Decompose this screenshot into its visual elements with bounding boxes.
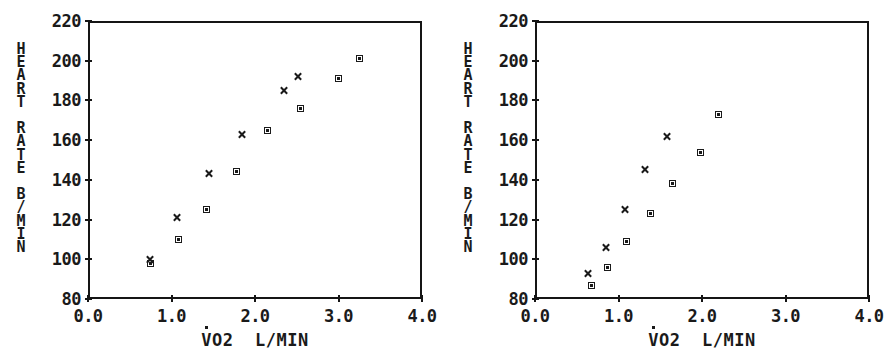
- y-axis-tick-label: 180: [499, 92, 528, 109]
- y-axis-tick: [532, 20, 539, 22]
- x-axis-tick-label: 2.0: [677, 308, 727, 325]
- y-axis-tick-label: 100: [499, 251, 528, 268]
- y-axis-tick-label: 140: [499, 172, 528, 189]
- y-axis-tick: [85, 99, 92, 101]
- y-axis-tick-label: 180: [52, 92, 81, 109]
- x-axis-label: VO2 L/MIN: [535, 330, 869, 350]
- chart-panel-right: 60 - 70 Y H E A R T R A T E B / M I N VO…: [447, 0, 894, 361]
- plot-frame: [88, 21, 422, 299]
- plot-frame: [535, 21, 869, 299]
- y-axis-tick: [85, 20, 92, 22]
- x-axis-tick-label: 4.0: [844, 308, 894, 325]
- y-axis-tick-label: 220: [499, 13, 528, 30]
- y-axis-tick-label: 160: [52, 132, 81, 149]
- y-axis-label: H E A R T R A T E B / M I N: [459, 43, 477, 254]
- x-axis-label: VO2 L/MIN: [88, 330, 422, 350]
- x-axis-tick: [421, 295, 423, 302]
- x-axis-tick-label: 0.0: [510, 308, 560, 325]
- y-axis-tick-label: 120: [499, 212, 528, 229]
- x-axis-tick-label: 0.0: [63, 308, 113, 325]
- y-axis-label: H E A R T R A T E B / M I N: [12, 43, 30, 254]
- x-axis-tick-label: 1.0: [147, 308, 197, 325]
- x-axis-tick: [618, 295, 620, 302]
- y-axis-tick-label: 120: [52, 212, 81, 229]
- chart-panel-left: 20 - 30 Y H E A R T R A T E B / M I N VO…: [0, 0, 447, 361]
- x-axis-tick: [87, 295, 89, 302]
- y-axis-tick: [532, 258, 539, 260]
- x-axis-tick-label: 1.0: [594, 308, 644, 325]
- y-axis-tick: [85, 139, 92, 141]
- x-axis-tick-label: 3.0: [314, 308, 364, 325]
- y-axis-tick: [532, 139, 539, 141]
- y-axis-tick-label: 100: [52, 251, 81, 268]
- y-axis-tick: [532, 60, 539, 62]
- y-axis-tick-label: 220: [52, 13, 81, 30]
- x-axis-tick: [534, 295, 536, 302]
- y-axis-tick: [532, 179, 539, 181]
- y-axis-tick: [85, 60, 92, 62]
- vdot-glyph: V: [648, 330, 659, 350]
- y-axis-tick-label: 160: [499, 132, 528, 149]
- y-axis-tick-label: 140: [52, 172, 81, 189]
- x-axis-tick-label: 4.0: [397, 308, 447, 325]
- y-axis-tick: [85, 219, 92, 221]
- y-axis-tick: [532, 219, 539, 221]
- y-axis-tick-label: 200: [52, 53, 81, 70]
- y-axis-tick-label: 200: [499, 53, 528, 70]
- x-axis-tick: [785, 295, 787, 302]
- y-axis-tick: [85, 258, 92, 260]
- x-axis-tick: [868, 295, 870, 302]
- x-axis-tick-label: 3.0: [761, 308, 811, 325]
- figure-container: 20 - 30 Y H E A R T R A T E B / M I N VO…: [0, 0, 895, 361]
- x-axis-tick: [254, 295, 256, 302]
- y-axis-tick: [532, 99, 539, 101]
- x-axis-tick-label: 2.0: [230, 308, 280, 325]
- x-axis-tick: [171, 295, 173, 302]
- x-axis-tick: [338, 295, 340, 302]
- vdot-glyph: V: [201, 330, 212, 350]
- y-axis-tick: [85, 179, 92, 181]
- x-axis-tick: [701, 295, 703, 302]
